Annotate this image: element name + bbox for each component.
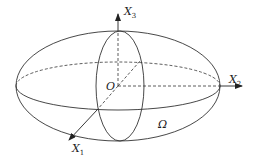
x2-label: X2 xyxy=(228,73,241,88)
x3-label: X3 xyxy=(123,5,136,20)
x1-axis-dashed-back xyxy=(118,61,140,86)
ellipsoid-diagram: X3 X2 X1 O Ω xyxy=(0,0,254,157)
origin-label: O xyxy=(106,80,115,93)
x1-label: X1 xyxy=(71,142,84,157)
equator-front xyxy=(16,86,220,110)
x1-axis-arrow xyxy=(69,110,97,140)
domain-label: Ω xyxy=(157,118,167,131)
